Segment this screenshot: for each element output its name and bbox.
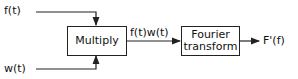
product-label: f(t)w(t) xyxy=(130,27,169,39)
multiply-label: Multiply xyxy=(75,35,118,47)
connector-lines xyxy=(0,0,298,79)
input-w-label: w(t) xyxy=(4,63,26,75)
f-input-arrow xyxy=(36,12,96,25)
fourier-label-line2: transform xyxy=(184,41,238,53)
fourier-transform-block: Fourier transform xyxy=(181,26,240,56)
w-input-arrow xyxy=(36,56,96,69)
multiply-block: Multiply xyxy=(67,26,127,56)
input-f-label: f(t) xyxy=(4,5,21,17)
output-label: F'(f) xyxy=(263,35,285,47)
